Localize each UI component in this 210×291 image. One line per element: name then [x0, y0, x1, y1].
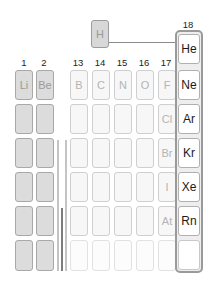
element-cell — [136, 172, 154, 202]
element-xe: Xe — [178, 172, 200, 202]
element-cell — [92, 206, 110, 236]
element-cell — [92, 172, 110, 202]
element-cell — [70, 104, 88, 134]
element-h: H — [91, 20, 109, 48]
group-label-18: 18 — [179, 19, 197, 30]
element-rn: Rn — [178, 206, 200, 236]
element-cell — [178, 240, 200, 270]
element-cell — [15, 206, 33, 236]
element-cell — [70, 138, 88, 168]
element-cell — [70, 172, 88, 202]
element-o: O — [136, 70, 154, 100]
transition-gap-line-dark — [61, 208, 63, 271]
element-br: Br — [158, 138, 176, 168]
element-cell — [136, 206, 154, 236]
element-at: At — [158, 206, 176, 236]
element-cell — [136, 240, 154, 271]
element-cell — [136, 138, 154, 168]
element-be: Be — [36, 70, 54, 100]
element-cell — [158, 240, 176, 271]
element-cell — [70, 206, 88, 236]
element-cell — [36, 206, 54, 236]
element-cell — [114, 206, 132, 236]
element-cell — [15, 172, 33, 202]
element-cell — [114, 240, 132, 271]
transition-gap-line-right — [65, 140, 67, 271]
element-cl: Cl — [158, 104, 176, 134]
element-cell — [92, 240, 110, 271]
element-symbol: H — [96, 28, 104, 40]
element-cell — [70, 240, 88, 271]
element-i: I — [158, 172, 176, 202]
group-label-1: 1 — [15, 57, 33, 68]
element-cell — [36, 172, 54, 202]
element-c: C — [92, 70, 110, 100]
element-kr: Kr — [178, 138, 200, 168]
group-label-2: 2 — [35, 57, 53, 68]
element-cell — [15, 104, 33, 134]
element-n: N — [114, 70, 132, 100]
element-cell — [114, 104, 132, 134]
element-cell — [36, 240, 54, 271]
group-label-15: 15 — [113, 57, 131, 68]
element-cell — [36, 104, 54, 134]
group-label-13: 13 — [69, 57, 87, 68]
group-label-17: 17 — [157, 57, 175, 68]
element-he: He — [178, 34, 200, 64]
element-cell — [114, 138, 132, 168]
element-cell — [15, 240, 33, 271]
hydrogen-connector-line — [109, 42, 177, 43]
element-b: B — [70, 70, 88, 100]
element-ne: Ne — [178, 70, 200, 100]
element-cell — [136, 104, 154, 134]
element-cell — [15, 138, 33, 168]
element-ar: Ar — [178, 104, 200, 134]
element-cell — [92, 138, 110, 168]
element-cell — [36, 138, 54, 168]
element-li: Li — [15, 70, 33, 100]
element-cell — [92, 104, 110, 134]
element-f: F — [158, 70, 176, 100]
group-label-16: 16 — [135, 57, 153, 68]
group-label-14: 14 — [91, 57, 109, 68]
transition-gap-line-left — [57, 140, 59, 271]
element-cell — [114, 172, 132, 202]
